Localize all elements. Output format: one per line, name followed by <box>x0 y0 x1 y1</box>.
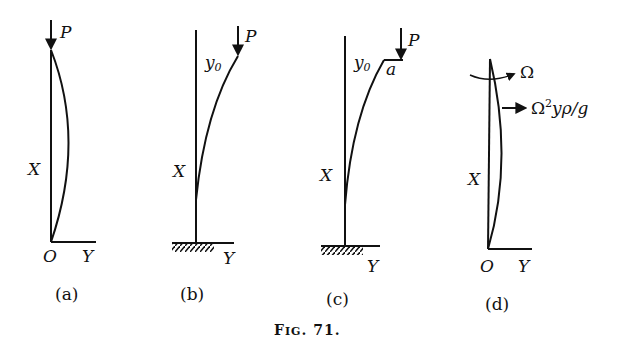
y-label-c: Y <box>367 256 380 276</box>
y-label-d: Y <box>518 256 531 276</box>
origin-label-a: O <box>43 246 57 266</box>
panel-d: Ω Ω2yρ/g X O Y (d) <box>466 59 588 314</box>
x-label-d: X <box>466 169 481 189</box>
panel-c: P y0 a X Y (c) <box>318 28 420 309</box>
fixed-support-hatch-c <box>321 247 363 255</box>
panel-label-d: (d) <box>485 294 509 314</box>
figure-canvas: P X O Y (a) P y0 X Y (b) P y0 a X Y (c) <box>0 0 624 355</box>
deflected-column-a <box>51 50 69 242</box>
y-label-b: Y <box>223 248 236 268</box>
x-label-c: X <box>318 165 333 185</box>
load-label-b: P <box>244 26 257 46</box>
rotation-label-d: Ω <box>520 62 534 82</box>
deflection-label-c: y0 <box>353 52 371 74</box>
deflection-label-b: y0 <box>204 52 222 74</box>
panel-label-b: (b) <box>180 284 204 304</box>
x-label-a: X <box>26 159 41 179</box>
rotation-arrow-d <box>470 74 514 79</box>
panel-label-c: (c) <box>326 289 349 309</box>
panel-a: P X O Y (a) <box>26 20 96 304</box>
column-axis-d <box>488 59 490 249</box>
y-label-a: Y <box>82 246 95 266</box>
deflected-column-c <box>345 60 384 205</box>
x-label-b: X <box>171 161 186 181</box>
load-label-c: P <box>407 30 420 50</box>
figure-caption: FIG. 71. <box>274 322 341 338</box>
fixed-support-hatch-b <box>172 244 214 252</box>
panel-label-a: (a) <box>55 284 78 304</box>
panel-b: P y0 X Y (b) <box>171 26 257 304</box>
deflected-column-b <box>196 56 238 200</box>
centrifugal-force-label-d: Ω2yρ/g <box>531 97 588 118</box>
load-label-a: P <box>59 22 72 42</box>
offset-label-c: a <box>386 59 396 79</box>
origin-label-d: O <box>480 256 494 276</box>
